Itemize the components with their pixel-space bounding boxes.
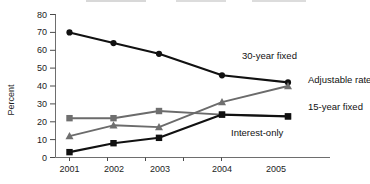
x-tick-label: 2003	[150, 164, 170, 174]
x-tick-label: 2004	[212, 164, 232, 174]
series-label-interest-only: Interest-only	[231, 127, 284, 138]
data-point	[110, 115, 116, 121]
series-label-30-year-fixed: 30-year fixed	[242, 50, 297, 61]
x-tick-label: 2005	[266, 164, 286, 174]
y-tick-label: 70	[37, 27, 47, 37]
data-point	[66, 149, 72, 155]
data-point	[156, 51, 162, 57]
data-point	[156, 135, 162, 141]
x-tick-label: 2002	[104, 164, 124, 174]
x-axis-tick-labels: 2001 2002 2003 2004 2005	[59, 164, 286, 174]
clipped-top-text	[86, 0, 306, 2]
data-point	[156, 108, 162, 114]
y-tick-label: 50	[37, 63, 47, 73]
chart-canvas: 80 70 60 50 40 30 20 10 0 Percent 2001 2…	[0, 0, 370, 184]
y-tick-label: 40	[37, 81, 47, 91]
mortgage-share-line-chart: 80 70 60 50 40 30 20 10 0 Percent 2001 2…	[0, 0, 370, 184]
y-tick-label: 60	[37, 45, 47, 55]
data-point	[110, 40, 116, 46]
data-point	[219, 111, 225, 117]
data-point	[66, 115, 72, 121]
y-axis-tick-labels: 80 70 60 50 40 30 20 10 0	[37, 10, 47, 163]
data-point	[219, 72, 225, 78]
data-point	[66, 29, 72, 35]
data-point	[110, 140, 116, 146]
y-tick-label: 0	[42, 153, 47, 163]
series-label-adjustable-rate: Adjustable rate	[308, 74, 370, 85]
x-tick-label: 2001	[59, 164, 79, 174]
y-axis-title: Percent	[6, 84, 16, 116]
y-tick-label: 30	[37, 99, 47, 109]
y-tick-label: 20	[37, 117, 47, 127]
y-tick-label: 80	[37, 10, 47, 20]
y-tick-label: 10	[37, 135, 47, 145]
series-label-15-year-fixed: 15-year fixed	[308, 101, 363, 112]
data-point	[285, 113, 291, 119]
y-axis-ticks	[50, 15, 56, 158]
x-axis-ticks	[70, 158, 222, 162]
